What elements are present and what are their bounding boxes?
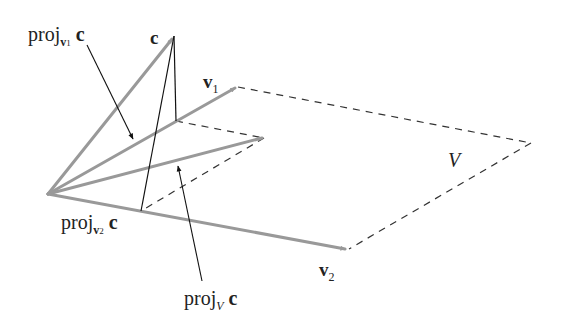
- label-v2: v2: [319, 260, 335, 279]
- label-proj-v2-prefix: proj: [61, 211, 93, 233]
- diagram-canvas: [0, 0, 567, 332]
- plane-edge-right: [349, 143, 531, 249]
- label-v1-sub: 1: [213, 82, 219, 96]
- label-v2-main: v: [319, 259, 329, 280]
- label-proj-V-sub: V: [216, 299, 223, 313]
- dashed-proj-v1-to-projV: [176, 121, 264, 138]
- vector-c: [48, 39, 172, 194]
- vector-v1: [48, 88, 235, 194]
- plane-edge-top: [238, 87, 531, 143]
- label-proj-v2-c: projv2 c: [61, 212, 118, 232]
- label-c-text: c: [150, 27, 158, 48]
- vector-proj-V: [48, 138, 262, 194]
- label-proj-V-prefix: proj: [184, 287, 216, 309]
- label-proj-v1-sub-num: 1: [66, 38, 71, 48]
- label-proj-V-vec: c: [229, 287, 238, 309]
- pointer-proj-V: [178, 166, 202, 281]
- label-plane-V: V: [448, 150, 460, 170]
- label-c: c: [150, 28, 158, 47]
- label-proj-v2-sub-num: 2: [99, 226, 104, 236]
- dashed-projV-to-proj-v2: [141, 138, 264, 211]
- label-v2-sub: 2: [329, 270, 335, 284]
- perp-c-to-proj-v2: [141, 36, 174, 211]
- label-proj-v2-vec: c: [109, 211, 118, 233]
- label-v1: v1: [203, 72, 219, 91]
- label-v1-main: v: [203, 71, 213, 92]
- label-proj-v1-c: projv1 c: [28, 24, 85, 44]
- label-proj-v1-vec: c: [76, 23, 85, 45]
- label-plane-V-text: V: [448, 149, 460, 171]
- label-proj-V-c: projV c: [184, 288, 237, 308]
- plane-V-outline: [141, 87, 531, 249]
- label-proj-v1-prefix: proj: [28, 23, 60, 45]
- pointer-proj-v1: [87, 45, 133, 139]
- perp-c-to-proj-v1: [174, 36, 176, 121]
